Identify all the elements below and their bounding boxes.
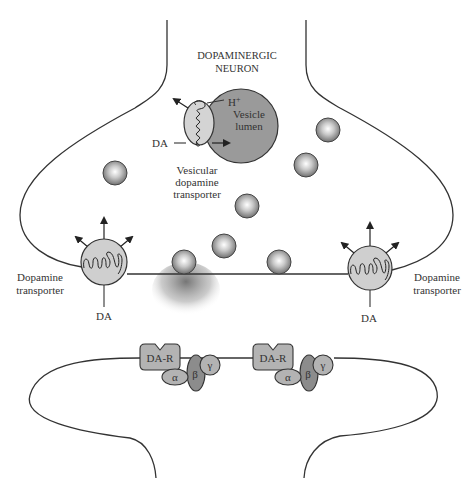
dopamine-vesicle bbox=[294, 153, 318, 177]
gamma-label: γ bbox=[320, 359, 326, 371]
efflux-arrow-icon bbox=[120, 237, 132, 247]
dopamine-vesicle bbox=[316, 118, 340, 142]
left-transporter-label-line-2: transporter bbox=[16, 284, 64, 296]
title-line-2: NEURON bbox=[215, 63, 259, 74]
beta-label: β bbox=[192, 368, 198, 380]
left-dopamine-transporter: Dopamine transporter DA bbox=[16, 218, 132, 322]
alpha-label: α bbox=[172, 371, 178, 383]
right-transporter-da-label: DA bbox=[361, 312, 377, 324]
receptor-label: DA-R bbox=[260, 352, 288, 364]
storage-vesicle: H+ Vesicle lumen DA Vesicular dopamine t… bbox=[152, 89, 278, 200]
efflux-arrow-icon bbox=[76, 237, 88, 247]
left-transporter-label-line-1: Dopamine bbox=[17, 271, 63, 283]
vmat-label-line-2: dopamine bbox=[175, 176, 218, 188]
efflux-arrow-icon bbox=[342, 243, 354, 253]
dopamine-synapse-diagram: DOPAMINERGIC NEURON H+ Vesicle lumen DA … bbox=[0, 0, 476, 493]
vmat-da-label: DA bbox=[152, 137, 168, 149]
vmat-label-line-1: Vesicular bbox=[177, 164, 218, 176]
neuron-title: DOPAMINERGIC NEURON bbox=[197, 50, 277, 74]
lumen-label-line-2: lumen bbox=[235, 120, 263, 132]
alpha-label: α bbox=[285, 371, 291, 383]
dopamine-vesicle bbox=[267, 250, 291, 274]
receptor-label: DA-R bbox=[147, 352, 175, 364]
right-transporter-label-line-2: transporter bbox=[413, 284, 461, 296]
postsynaptic-neuron-outline bbox=[29, 358, 437, 478]
title-line-1: DOPAMINERGIC bbox=[197, 50, 277, 61]
dopamine-receptor-1: DA-R α β γ bbox=[140, 344, 220, 391]
dopamine-receptor-2: DA-R α β γ bbox=[253, 344, 333, 391]
right-dopamine-transporter: Dopamine transporter DA bbox=[342, 223, 461, 324]
left-transporter-da-label: DA bbox=[96, 310, 112, 322]
efflux-arrow-icon bbox=[386, 243, 398, 253]
dopamine-vesicle-docked bbox=[172, 250, 196, 274]
right-transporter-label-line-1: Dopamine bbox=[414, 271, 460, 283]
lumen-label-line-1: Vesicle bbox=[233, 108, 265, 120]
dopamine-vesicle bbox=[103, 161, 127, 185]
dopamine-vesicle bbox=[235, 194, 259, 218]
beta-label: β bbox=[305, 368, 311, 380]
gamma-label: γ bbox=[207, 359, 213, 371]
vmat-label-line-3: transporter bbox=[173, 188, 221, 200]
h-out-arrow-icon bbox=[174, 99, 188, 108]
dopamine-vesicle bbox=[212, 234, 236, 258]
